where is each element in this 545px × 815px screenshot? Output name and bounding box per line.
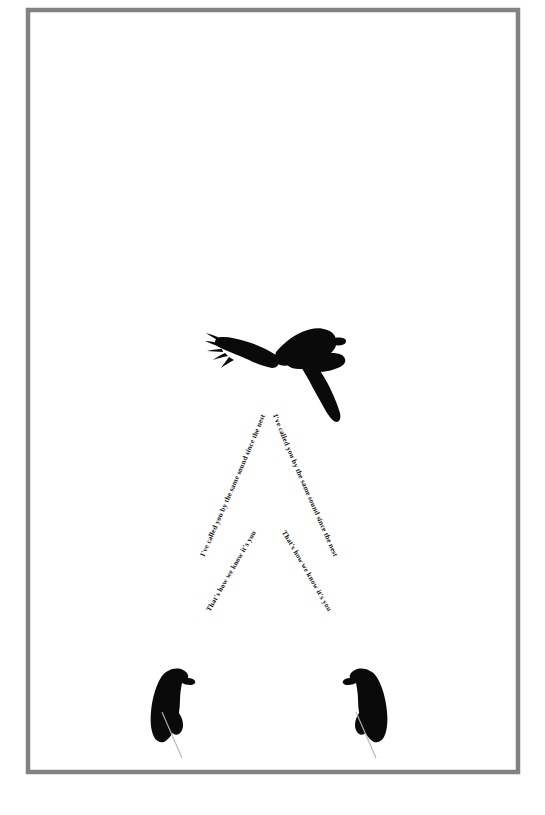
flying-raven	[205, 328, 346, 422]
text-outer-left: I've called you by the same sound since …	[199, 413, 267, 558]
text-outer-right: I've called you by the same sound since …	[271, 413, 339, 558]
artwork-canvas: I've called you by the same sound since …	[0, 0, 545, 815]
poster-artwork: I've called you by the same sound since …	[0, 0, 545, 815]
perched-crow-left	[151, 669, 196, 758]
perched-crow-right	[343, 669, 388, 758]
poster-border	[28, 10, 518, 772]
